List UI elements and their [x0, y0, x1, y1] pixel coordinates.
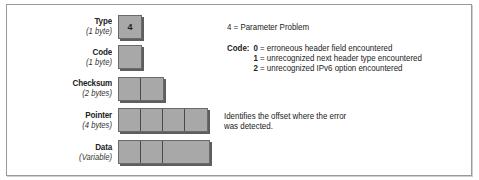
pointer-field-size: (4 bytes) [51, 120, 112, 130]
code-value-row: 1 = unrecognized next header type encoun… [253, 53, 421, 63]
pointer-cell [185, 109, 207, 131]
code-field-box [118, 45, 142, 69]
type-label: Type (1 byte) [40, 16, 112, 36]
checksum-field-size: (2 bytes) [51, 88, 112, 98]
type-field-size: (1 byte) [51, 26, 112, 36]
checksum-cell [119, 78, 141, 100]
data-cell [119, 141, 141, 163]
code-description-header: Code: [227, 43, 249, 53]
pointer-label: Pointer (4 bytes) [40, 110, 112, 130]
code-value-row: 2 = unrecognized IPv6 option encountered [253, 63, 402, 73]
checksum-field-name: Checksum [51, 78, 112, 88]
data-label: Data (Variable) [40, 142, 112, 162]
data-cell [141, 141, 163, 163]
pointer-field-name: Pointer [51, 110, 112, 120]
pointer-cell [141, 109, 163, 131]
data-field-box [118, 140, 210, 164]
checksum-label: Checksum (2 bytes) [40, 78, 112, 98]
data-field-name: Data [51, 142, 112, 152]
type-field-box: 4 [118, 15, 142, 39]
code-cell [119, 46, 141, 68]
pointer-cell [163, 109, 185, 131]
checksum-cell [141, 78, 163, 100]
code-field-name: Code [51, 47, 112, 57]
code-value-row: 0 = erroneous header field encountered [253, 43, 392, 53]
code-label: Code (1 byte) [40, 47, 112, 67]
code-meaning: = erroneous header field encountered [258, 43, 393, 53]
type-description: 4 = Parameter Problem [227, 22, 309, 32]
code-meaning: = unrecognized IPv6 option encountered [258, 63, 403, 73]
type-cell: 4 [119, 16, 141, 38]
pointer-cell [119, 109, 141, 131]
pointer-description-line2: was detected. [224, 121, 273, 131]
data-cell [163, 141, 209, 163]
pointer-description-line1: Identifies the offset where the error [224, 111, 346, 121]
pointer-field-box [118, 108, 208, 132]
checksum-field-box [118, 77, 164, 101]
code-meaning: = unrecognized next header type encounte… [258, 53, 422, 63]
code-field-size: (1 byte) [51, 57, 112, 67]
type-field-name: Type [51, 16, 112, 26]
data-field-size: (Variable) [51, 152, 112, 162]
